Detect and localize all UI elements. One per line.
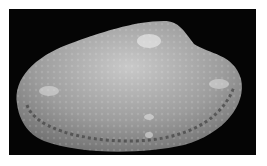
umbo-highlight	[137, 34, 161, 48]
shell-illustration	[9, 9, 256, 155]
shell-photo	[9, 9, 256, 155]
